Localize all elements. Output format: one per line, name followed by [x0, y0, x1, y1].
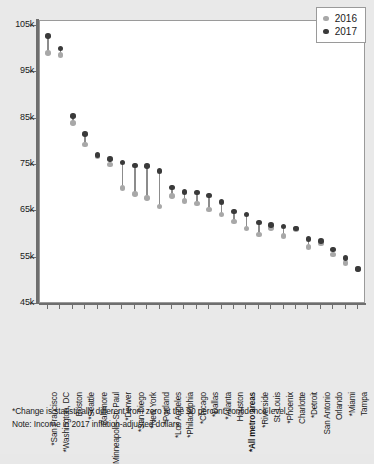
x-axis-tick: [320, 304, 321, 309]
y-axis-tick-label: 95k: [0, 65, 34, 75]
data-point-2017: [256, 220, 262, 226]
data-point-2017: [330, 247, 336, 253]
footnote-significance: *Change is statistically different from …: [12, 405, 368, 418]
data-point-2016: [132, 191, 138, 197]
y-axis-labels: 45k55k65k75k85k95k105k: [0, 0, 34, 454]
x-axis-tick: [121, 304, 122, 309]
data-point-2016: [157, 204, 163, 210]
y-axis-tick-label: 75k: [0, 158, 34, 168]
legend-label: 2017: [335, 26, 357, 37]
x-axis-tick: [183, 304, 184, 309]
x-axis-tick: [72, 304, 73, 309]
y-axis-tick-label: 105k: [0, 19, 34, 29]
data-point-2017: [281, 224, 287, 230]
legend-dot-icon: [323, 29, 329, 35]
connector-line: [146, 166, 148, 198]
x-axis-labels: *San Francisco*Washington, DCBoston*Seat…: [39, 310, 366, 394]
connector-line: [159, 171, 161, 207]
x-axis-tick: [196, 304, 197, 309]
x-axis-tick: [146, 304, 147, 309]
x-axis-tick: [171, 304, 172, 309]
y-axis-line: [36, 19, 39, 304]
legend-dot-icon: [323, 16, 329, 22]
x-axis-tick: [208, 304, 209, 309]
data-point-2017: [58, 46, 64, 52]
data-point-2016: [120, 185, 126, 191]
chart-legend: 20162017: [316, 7, 366, 43]
data-point-2016: [45, 50, 51, 56]
legend-entry: 2017: [323, 25, 357, 38]
x-axis-tick: [357, 304, 358, 309]
data-point-2016: [107, 162, 113, 168]
plot-marks-layer: [40, 21, 364, 302]
data-point-2016: [231, 219, 237, 225]
x-axis-tick: [134, 304, 135, 309]
y-axis-tick-label: 55k: [0, 251, 34, 261]
data-point-2017: [219, 199, 225, 205]
x-axis-tick: [159, 304, 160, 309]
data-point-2016: [206, 207, 212, 213]
data-point-2016: [330, 252, 336, 258]
data-point-2017: [95, 152, 101, 158]
data-point-2016: [219, 212, 225, 218]
y-axis-tick-label: 85k: [0, 112, 34, 122]
x-axis-tick: [258, 304, 259, 309]
footnotes: *Change is statistically different from …: [12, 405, 368, 430]
x-axis-tick: [245, 304, 246, 309]
x-axis-tick: [345, 304, 346, 309]
data-point-2017: [306, 236, 312, 242]
plot-area: [39, 20, 365, 303]
data-point-2016: [244, 226, 250, 232]
x-axis-tick: [109, 304, 110, 309]
x-axis-tick: [233, 304, 234, 309]
data-point-2017: [206, 193, 212, 199]
y-axis-tick-label: 45k: [0, 297, 34, 307]
data-point-2017: [355, 266, 361, 272]
x-axis-tick: [270, 304, 271, 309]
y-axis-tick-label: 65k: [0, 204, 34, 214]
x-axis-tick: [332, 304, 333, 309]
footnote-note: Note: Income in 2017 inflation-adjusted …: [12, 418, 368, 431]
data-point-2016: [194, 201, 200, 207]
data-point-2017: [293, 226, 299, 232]
data-point-2017: [194, 190, 200, 196]
data-point-2017: [231, 209, 237, 215]
data-point-2016: [343, 260, 349, 266]
data-point-2016: [306, 244, 312, 250]
x-axis-tick: [307, 304, 308, 309]
data-point-2017: [169, 185, 175, 191]
data-point-2017: [45, 33, 51, 39]
data-point-2017: [82, 131, 88, 137]
data-point-2017: [132, 163, 138, 169]
data-point-2016: [82, 142, 88, 148]
data-point-2016: [169, 193, 175, 199]
x-axis-tick: [283, 304, 284, 309]
legend-label: 2016: [335, 13, 357, 24]
data-point-2016: [58, 52, 64, 58]
connector-line: [134, 165, 136, 193]
x-axis-tick: [59, 304, 60, 309]
data-point-2017: [182, 189, 188, 195]
x-axis-tick: [295, 304, 296, 309]
data-point-2017: [318, 238, 324, 244]
data-point-2016: [70, 120, 76, 126]
data-point-2017: [157, 168, 163, 174]
data-point-2017: [107, 156, 113, 162]
connector-line: [122, 163, 124, 188]
x-axis-tick: [84, 304, 85, 309]
x-axis-tick: [221, 304, 222, 309]
data-point-2017: [268, 222, 274, 228]
data-point-2017: [120, 160, 126, 166]
x-axis-tick: [97, 304, 98, 309]
data-point-2016: [281, 233, 287, 239]
x-axis-tick: [47, 304, 48, 309]
data-point-2017: [144, 163, 150, 169]
data-point-2016: [182, 198, 188, 204]
data-point-2016: [256, 232, 262, 238]
data-point-2017: [244, 212, 250, 218]
legend-entry: 2016: [323, 12, 357, 25]
data-point-2016: [144, 195, 150, 201]
data-point-2017: [70, 113, 76, 119]
